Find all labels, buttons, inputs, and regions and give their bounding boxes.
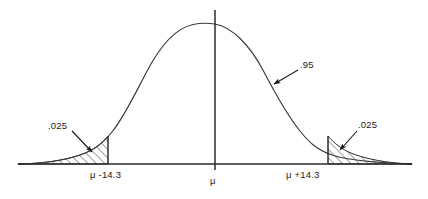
left-bound-axis-label: μ -14.3 bbox=[90, 170, 121, 180]
left-tail-probability-label: .025 bbox=[48, 121, 67, 131]
central-probability-label: .95 bbox=[300, 60, 314, 70]
mean-axis-label: μ bbox=[210, 176, 216, 186]
normal-curve-plot bbox=[0, 0, 428, 199]
right-tail-probability-label: .025 bbox=[358, 120, 377, 130]
central-area-leader-arrow-icon bbox=[274, 70, 298, 84]
right-tail-leader-arrow-icon bbox=[340, 131, 357, 150]
right-tail-shaded-region bbox=[322, 128, 418, 166]
normal-distribution-figure: .025 .95 .025 μ -14.3 μ μ +14.3 bbox=[0, 0, 428, 199]
right-bound-axis-label: μ +14.3 bbox=[286, 170, 320, 180]
left-tail-leader-arrow-icon bbox=[72, 131, 92, 152]
